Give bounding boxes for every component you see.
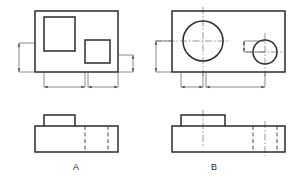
front-view-a-outline	[35, 126, 118, 152]
small-square-boss	[85, 40, 110, 63]
view-label-a: A	[73, 162, 79, 172]
large-rectangular-boss	[44, 17, 75, 51]
drawing-canvas: A B	[0, 0, 300, 178]
view-b	[155, 7, 285, 156]
view-label-b: B	[211, 162, 217, 172]
front-view-a-boss	[44, 115, 75, 126]
front-view-b-outline	[172, 126, 285, 152]
engineering-drawing-sheet: A B	[0, 0, 300, 178]
view-a	[19, 11, 133, 152]
